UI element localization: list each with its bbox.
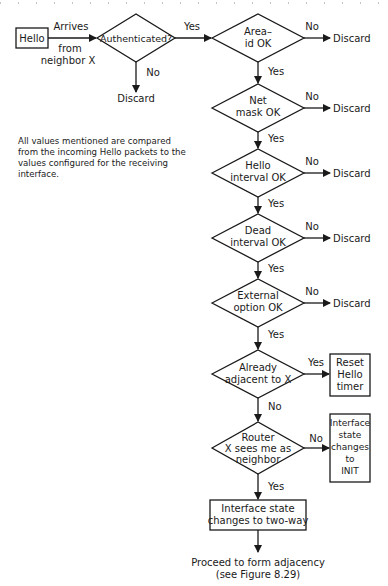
svg-text:timer: timer (337, 381, 365, 392)
comparison-note: All values mentioned are compared from t… (18, 136, 188, 180)
svg-text:from: from (58, 43, 81, 54)
svg-text:neighbor: neighbor (236, 454, 281, 465)
svg-text:No: No (305, 286, 319, 297)
svg-text:(see Figure 8.29): (see Figure 8.29) (216, 569, 301, 580)
svg-text:Discard: Discard (333, 168, 371, 179)
svg-text:interval OK: interval OK (230, 237, 286, 248)
svg-text:Yes: Yes (307, 357, 324, 368)
svg-text:Proceed to form adjacency: Proceed to form adjacency (191, 557, 325, 568)
svg-text:Yes: Yes (267, 198, 284, 209)
svg-text:INIT: INIT (341, 466, 359, 476)
svg-text:Hello: Hello (337, 369, 362, 380)
svg-text:id OK: id OK (245, 38, 272, 49)
svg-text:X sees me as: X sees me as (225, 443, 291, 454)
svg-text:Discard: Discard (333, 103, 371, 114)
hello-label: Hello (19, 33, 44, 44)
svg-text:Router: Router (241, 432, 275, 443)
svg-text:No: No (305, 221, 319, 232)
svg-text:mask OK: mask OK (236, 107, 281, 118)
svg-text:Yes: Yes (183, 21, 200, 32)
svg-text:neighbor X: neighbor X (41, 55, 96, 66)
svg-text:No: No (305, 21, 319, 32)
svg-text:No: No (305, 91, 319, 102)
svg-text:Area–: Area– (244, 26, 272, 37)
svg-text:No: No (305, 156, 319, 167)
svg-text:Discard: Discard (117, 93, 155, 104)
svg-text:interval OK: interval OK (230, 172, 286, 183)
svg-text:Discard: Discard (333, 298, 371, 309)
svg-text:Hello: Hello (245, 160, 270, 171)
svg-text:No: No (146, 67, 160, 78)
svg-text:Yes: Yes (267, 133, 284, 144)
svg-text:Yes: Yes (267, 263, 284, 274)
svg-text:Interface: Interface (330, 418, 371, 428)
svg-text:Yes: Yes (267, 66, 284, 77)
svg-text:adjacent to X: adjacent to X (225, 374, 292, 385)
svg-text:Arrives: Arrives (54, 21, 89, 32)
svg-text:No: No (268, 401, 282, 412)
svg-text:Interface state: Interface state (221, 503, 294, 514)
svg-text:state: state (339, 430, 362, 440)
svg-text:External: External (237, 290, 279, 301)
svg-text:changes: changes (331, 442, 369, 452)
svg-text:Discard: Discard (333, 33, 371, 44)
flowchart: Hello Arrives from neighbor X Authentica… (0, 0, 388, 586)
svg-text:Already: Already (239, 362, 277, 373)
svg-text:option OK: option OK (233, 302, 283, 313)
svg-text:Discard: Discard (333, 233, 371, 244)
svg-text:changes to two-way: changes to two-way (208, 515, 309, 526)
svg-text:Reset: Reset (336, 357, 364, 368)
svg-text:Authenticated?: Authenticated? (100, 33, 172, 44)
svg-text:Yes: Yes (267, 329, 284, 340)
svg-text:Yes: Yes (267, 481, 284, 492)
svg-text:Net: Net (249, 95, 267, 106)
svg-text:No: No (309, 433, 323, 444)
svg-text:to: to (345, 454, 355, 464)
svg-text:Dead: Dead (245, 225, 271, 236)
